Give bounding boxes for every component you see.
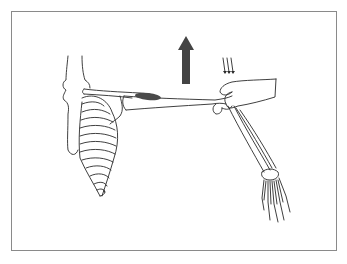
forearm-bones	[228, 106, 276, 172]
upward-force-arrow	[178, 36, 194, 84]
neck-outline	[63, 56, 90, 155]
downward-resistance-arrows	[223, 58, 235, 74]
examiner-hand	[213, 79, 276, 114]
anatomy-illustration	[0, 0, 347, 264]
skeletal-hand	[261, 169, 290, 222]
rib-cage	[79, 96, 117, 196]
